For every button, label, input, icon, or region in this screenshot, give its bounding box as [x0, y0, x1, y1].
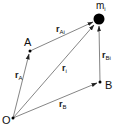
point-O	[12, 117, 15, 120]
vector-diagram	[0, 0, 115, 127]
point-B	[99, 81, 102, 84]
label-r-B: rB	[59, 100, 67, 110]
label-r-Ai: rAi	[56, 25, 65, 35]
mass-subscript: i	[104, 6, 105, 12]
label-A: A	[24, 37, 31, 48]
vector-r-B	[13, 83, 97, 118]
label-r-A: rA	[15, 71, 23, 81]
label-B: B	[105, 80, 112, 91]
mass-m-i	[94, 14, 105, 25]
label-r-Bi: rBi	[102, 51, 111, 61]
vector-r-Bi	[99, 26, 100, 82]
label-r-i: ri	[62, 64, 67, 74]
label-O: O	[2, 115, 11, 126]
label-m-i: mi	[96, 1, 106, 12]
point-A	[29, 50, 32, 53]
